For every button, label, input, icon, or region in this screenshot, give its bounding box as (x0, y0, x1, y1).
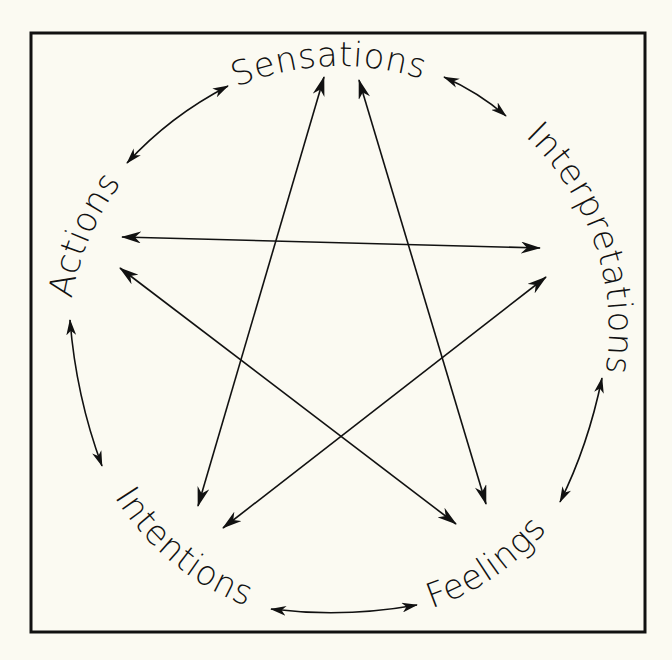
node-label-sensations: Sensations (225, 34, 432, 95)
arrow-sensations-interpretations (444, 77, 506, 116)
diagram-frame (31, 33, 645, 632)
arrow-actions-feelings (120, 268, 456, 524)
arrow-feelings-intentions (271, 605, 417, 613)
node-label-actions: Actions (40, 164, 128, 300)
node-label-feelings: Feelings (420, 508, 553, 616)
arrow-intentions-actions (70, 320, 102, 466)
arrow-sensations-intentions (198, 77, 324, 506)
arrow-sensations-feelings (359, 80, 486, 504)
node-label-interpretations: Interpretations (519, 113, 641, 377)
arrow-interpretations-intentions (223, 277, 546, 528)
node-label-intentions: Intentions (107, 479, 259, 613)
arrow-actions-interpretations (122, 237, 540, 248)
arrow-actions-sensations (127, 86, 228, 163)
five-element-cycle-diagram: Sensations Interpretations Feelings Inte… (0, 0, 672, 660)
arrow-interpretations-feelings (560, 378, 602, 502)
